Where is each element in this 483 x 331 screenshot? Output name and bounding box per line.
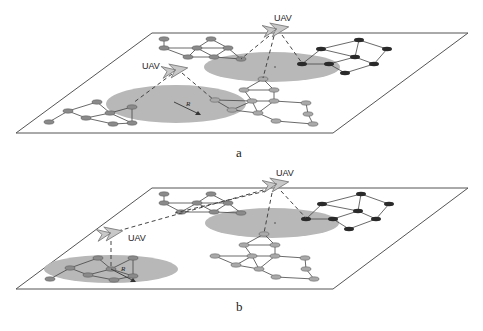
coverage-area [106,85,246,123]
figure: R UAV UAV [0,0,483,331]
radius-label: R [120,265,126,273]
uav-label: UAV [142,61,160,71]
panel-b: R UAV UAV [16,168,468,289]
panel-caption-b: b [236,299,243,315]
radius-label: R [185,100,191,108]
uav-label: UAV [274,13,292,23]
coverage-area [204,52,340,82]
uav-label: UAV [128,233,146,243]
uav-label: UAV [276,168,294,178]
panel-a: R UAV UAV [16,13,468,133]
diagram-canvas: R UAV UAV [0,0,483,331]
panel-caption-a: a [236,145,242,161]
